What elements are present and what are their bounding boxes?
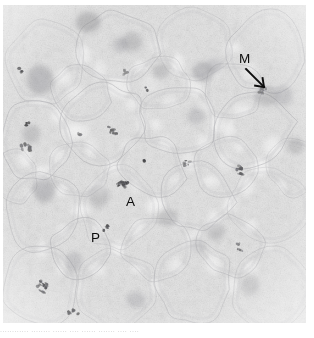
edge-vignette: [0, 0, 314, 338]
clipped-caption-text: ............ ........ ...... .... ......…: [0, 328, 314, 334]
label-anaphase: A: [126, 195, 135, 209]
label-prophase: P: [91, 231, 100, 245]
clipped-caption-strip: ............ ........ ...... .... ......…: [0, 328, 314, 338]
micrograph-canvas: [0, 0, 314, 338]
label-metaphase: M: [239, 52, 250, 66]
micrograph-figure: M A P ............ ........ ...... .... …: [0, 0, 314, 338]
micrograph-frame: M A P ............ ........ ...... .... …: [0, 0, 314, 338]
